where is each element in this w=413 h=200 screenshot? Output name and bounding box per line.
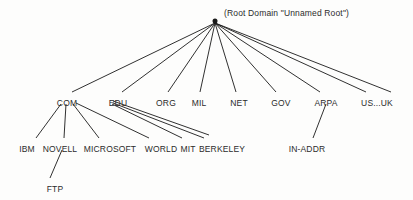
edge-com-to-ibm bbox=[36, 104, 61, 138]
edge-root-to-com bbox=[72, 23, 215, 92]
node-label-mit: MIT bbox=[180, 145, 195, 154]
edge-root-to-edu bbox=[122, 23, 215, 92]
edge-edu-to-mit bbox=[112, 104, 182, 138]
node-label-in-addr: IN-ADDR bbox=[289, 145, 325, 154]
node-label-arpa: ARPA bbox=[314, 99, 337, 108]
node-label-net: NET bbox=[230, 99, 247, 108]
node-label-us-uk: US...UK bbox=[361, 99, 393, 108]
node-label-edu: EDU bbox=[109, 99, 127, 108]
edge-root-to-us-uk-b bbox=[215, 23, 391, 92]
node-label-org: ORG bbox=[156, 99, 176, 108]
node-label-microsoft: MICROSOFT bbox=[84, 145, 136, 154]
edge-root-to-net bbox=[215, 23, 236, 92]
edge-com-to-world bbox=[76, 103, 149, 138]
node-label-com: COM bbox=[57, 99, 77, 108]
edge-arpa-to-in-addr bbox=[313, 104, 326, 138]
edge-root-to-arpa bbox=[215, 23, 320, 92]
node-label-berkeley: BERKELEY bbox=[199, 145, 245, 154]
node-label-gov: GOV bbox=[271, 99, 290, 108]
node-label-novell: NOVELL bbox=[43, 145, 77, 154]
root-domain-caption: (Root Domain "Unnamed Root") bbox=[224, 9, 349, 18]
edge-root-to-us-uk-a bbox=[215, 23, 366, 92]
edge-root-to-gov bbox=[215, 23, 276, 92]
edge-root-to-org bbox=[168, 23, 215, 92]
root-domain-dot bbox=[213, 19, 218, 24]
edge-com-to-microsoft bbox=[73, 104, 99, 138]
edge-root-to-mil bbox=[200, 23, 215, 92]
node-label-world: WORLD bbox=[145, 145, 177, 154]
edge-edu-to-berkeley bbox=[113, 103, 204, 138]
node-label-ibm: IBM bbox=[19, 145, 35, 154]
node-label-mil: MIL bbox=[192, 99, 207, 108]
node-label-ftp: FTP bbox=[47, 185, 64, 194]
edge-com-to-novell bbox=[64, 104, 66, 138]
dns-hierarchy-diagram: (Root Domain "Unnamed Root") COMEDUORGMI… bbox=[0, 0, 413, 200]
edge-novell-to-ftp bbox=[50, 150, 62, 178]
